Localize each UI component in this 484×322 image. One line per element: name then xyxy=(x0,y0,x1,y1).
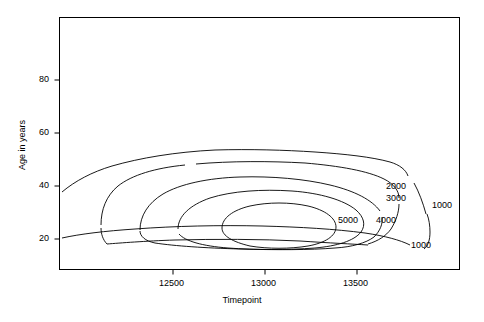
contour-line-1000-outer-right xyxy=(414,183,426,214)
x-axis-title: Timepoint xyxy=(0,295,484,305)
contour-label-3000: 3000 xyxy=(386,193,406,203)
y-tick-label-20: 20 xyxy=(39,233,49,243)
contour-line-2000-b xyxy=(196,162,399,198)
contour-label-5000: 5000 xyxy=(338,215,358,225)
contour-canvas xyxy=(0,0,484,322)
y-axis-title: Age in years xyxy=(17,105,27,185)
contour-line-4000 xyxy=(178,190,364,249)
x-tick-label-12500: 12500 xyxy=(159,278,184,288)
y-tick-label-80: 80 xyxy=(39,74,49,84)
y-tick-label-40: 40 xyxy=(39,180,49,190)
contour-label-2000: 2000 xyxy=(386,181,406,191)
contour-label-4000: 4000 xyxy=(376,215,396,225)
contour-label-1000-bottom: 1000 xyxy=(411,240,431,250)
contour-plot: Timepoint Age in years 12500 13000 13500… xyxy=(0,0,484,322)
y-axis-ticks xyxy=(55,80,60,239)
plot-panel-border xyxy=(60,18,460,270)
contour-label-1000-right: 1000 xyxy=(432,200,452,210)
y-tick-label-60: 60 xyxy=(39,127,49,137)
contour-line-2000-d xyxy=(101,228,368,245)
x-tick-label-13000: 13000 xyxy=(251,278,276,288)
contour-line-1000-outer xyxy=(62,150,408,192)
x-axis-ticks xyxy=(173,270,357,275)
x-tick-label-13500: 13500 xyxy=(343,278,368,288)
